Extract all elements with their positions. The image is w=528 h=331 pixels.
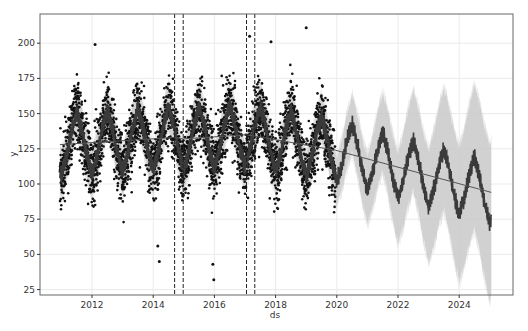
x-axis-label: ds	[270, 310, 281, 320]
y-tick-label: 75	[24, 214, 35, 224]
x-tick-label: 2018	[264, 300, 287, 310]
y-axis-ticks: 255075100125150175200	[18, 38, 40, 294]
y-tick-label: 150	[18, 109, 35, 119]
y-tick-label: 100	[18, 179, 35, 189]
y-tick-label: 200	[18, 38, 35, 48]
y-tick-label: 125	[18, 144, 35, 154]
x-tick-label: 2014	[142, 300, 165, 310]
x-tick-label: 2022	[387, 300, 410, 310]
y-tick-label: 175	[18, 73, 35, 83]
y-tick-label: 25	[24, 285, 35, 295]
x-tick-label: 2012	[81, 300, 104, 310]
prophet-forecast-chart: 2012201420162018202020222024 25507510012…	[0, 0, 528, 331]
x-tick-label: 2024	[448, 300, 471, 310]
x-axis-ticks: 2012201420162018202020222024	[81, 295, 471, 310]
y-axis-label: y	[8, 151, 18, 157]
y-tick-label: 50	[24, 249, 36, 259]
x-tick-label: 2016	[203, 300, 226, 310]
x-tick-label: 2020	[325, 300, 348, 310]
